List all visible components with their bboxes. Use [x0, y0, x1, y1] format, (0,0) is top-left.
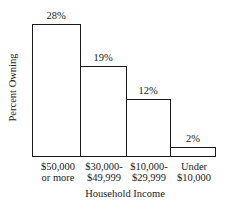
category-label: $10,000- $29,999 [124, 161, 174, 183]
value-label: 19% [80, 52, 126, 63]
value-label: 12% [125, 85, 171, 96]
bar-10000-29999 [126, 99, 171, 157]
category-line: $10,000- [124, 161, 174, 172]
category-line: Under [169, 161, 219, 172]
bar-under-10000 [170, 147, 216, 157]
value-label: 2% [170, 133, 216, 144]
category-line: $29,999 [124, 172, 174, 183]
value-label: 28% [33, 10, 79, 21]
category-line: $10,000 [169, 172, 219, 183]
category-line: $49,999 [79, 172, 129, 183]
y-axis-label: Percent Owning [7, 52, 18, 124]
category-label: Under $10,000 [169, 161, 219, 183]
category-line: $50,000 [33, 161, 83, 172]
category-label: $50,000 or more [33, 161, 83, 183]
bar-30000-49999 [80, 66, 127, 157]
x-axis-label: Household Income [0, 188, 226, 199]
category-line: $30,000- [79, 161, 129, 172]
bar-50000-or-more [32, 24, 81, 157]
category-line: or more [33, 172, 83, 183]
category-label: $30,000- $49,999 [79, 161, 129, 183]
